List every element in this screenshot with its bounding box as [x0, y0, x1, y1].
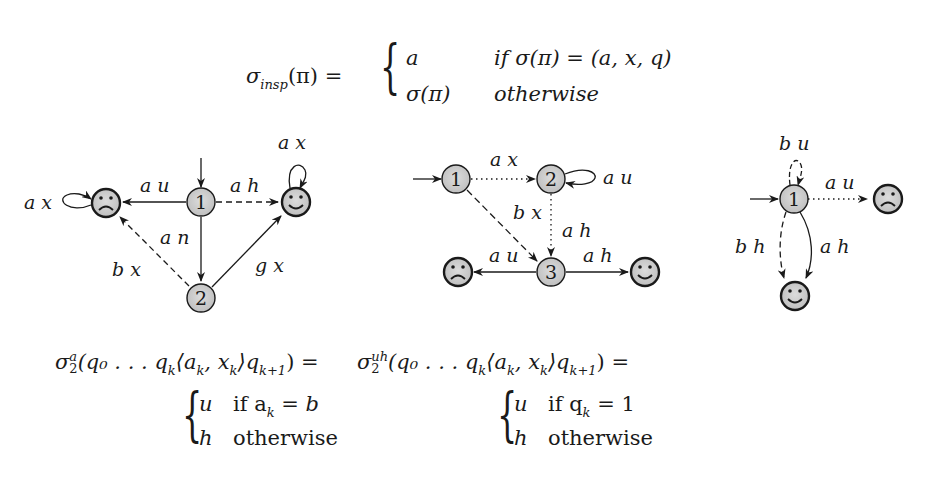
- arg: (q₀ . . . q: [388, 350, 478, 374]
- cond-text: = 1: [591, 392, 635, 416]
- svg-text:3: 3: [545, 261, 557, 283]
- happy-face-icon: [631, 258, 659, 286]
- edge-label: a u: [825, 171, 855, 193]
- arg-sub: k: [168, 363, 176, 378]
- cond-sub: k: [267, 405, 275, 420]
- formula-lhs: σ: [357, 350, 371, 374]
- node-middle-1: 1: [442, 165, 470, 193]
- subscript: 2: [69, 363, 77, 375]
- arg: ⟩q: [237, 350, 259, 374]
- edge-2-self: [565, 170, 595, 184]
- edge-label: a h: [230, 174, 260, 196]
- edge-1-self: [789, 161, 801, 185]
- edge-label: a h: [583, 244, 613, 266]
- formula-lhs: σ: [55, 350, 69, 374]
- edge-label: a n: [160, 226, 190, 248]
- equals: ) =: [286, 350, 318, 374]
- sad-face-icon: [874, 185, 902, 213]
- cond-text: if a: [233, 392, 267, 416]
- arg-sub: k: [507, 363, 515, 378]
- sad-face-icon: [92, 189, 120, 217]
- arg: , x: [204, 350, 229, 374]
- formula-sigma2-uh: σuh2(q₀ . . . qk⟨ak, xk⟩qk+1) = { u if q…: [357, 350, 697, 480]
- edge-label: b x: [513, 201, 542, 223]
- arg: , x: [515, 350, 540, 374]
- case2-value: h: [199, 426, 213, 450]
- svg-text:1: 1: [195, 191, 207, 213]
- happy-face-icon: [781, 282, 809, 310]
- edge-label: a h: [562, 219, 592, 241]
- arg-sub: k+1: [259, 363, 286, 378]
- happy-face-icon: [282, 188, 310, 216]
- arg: ⟨a: [486, 350, 507, 374]
- svg-text:2: 2: [195, 287, 207, 309]
- arg: (q₀ . . . q: [78, 350, 168, 374]
- edge-label: b x: [112, 258, 141, 280]
- node-right-1: 1: [780, 185, 808, 213]
- edge-label: a x: [278, 131, 306, 153]
- edge-label: b u: [779, 132, 809, 154]
- sad-face-icon: [444, 258, 472, 286]
- edge-label: a x: [490, 148, 518, 170]
- svg-text:1: 1: [450, 168, 462, 190]
- subscript: 2: [371, 363, 388, 375]
- edge-label: a h: [820, 235, 850, 257]
- edge-1-happy-dashed: [780, 212, 786, 278]
- edge-label: a u: [489, 244, 519, 266]
- cond-text: if q: [548, 392, 583, 416]
- arg: ⟨a: [176, 350, 197, 374]
- case2-condition: otherwise: [548, 426, 653, 450]
- case1-condition: if ak = b: [233, 392, 319, 420]
- arg-sub: k: [540, 363, 548, 378]
- svg-text:2: 2: [545, 168, 557, 190]
- case2-value: h: [514, 426, 528, 450]
- edge-2-happy: [212, 216, 281, 287]
- edge-1-happy-solid: [800, 212, 811, 278]
- case1-value: u: [514, 392, 528, 416]
- edge-label: a u: [603, 166, 633, 188]
- formula-sigma2-a: σa2(q₀ . . . qk⟨ak, xk⟩qk+1) = { u if ak…: [55, 350, 355, 480]
- cond-sub: k: [583, 405, 591, 420]
- edge-happy-self: [289, 165, 306, 188]
- edge-label: a x: [24, 191, 52, 213]
- arg: ⟩q: [548, 350, 570, 374]
- case1-condition: if qk = 1: [548, 392, 635, 420]
- edge-label: b h: [735, 235, 765, 257]
- case1-value: u: [199, 392, 213, 416]
- case2-condition: otherwise: [233, 426, 338, 450]
- node-middle-3: 3: [537, 258, 565, 286]
- node-middle-2: 2: [537, 165, 565, 193]
- cond-text: = b: [275, 392, 319, 416]
- edge-label: a u: [140, 174, 170, 196]
- edge-label: g x: [255, 254, 284, 276]
- node-left-2: 2: [187, 284, 215, 312]
- edge-sad-self: [63, 194, 91, 208]
- node-left-1: 1: [187, 188, 215, 216]
- arg-sub: k+1: [570, 363, 597, 378]
- equals: ) =: [597, 350, 629, 374]
- svg-text:1: 1: [788, 188, 800, 210]
